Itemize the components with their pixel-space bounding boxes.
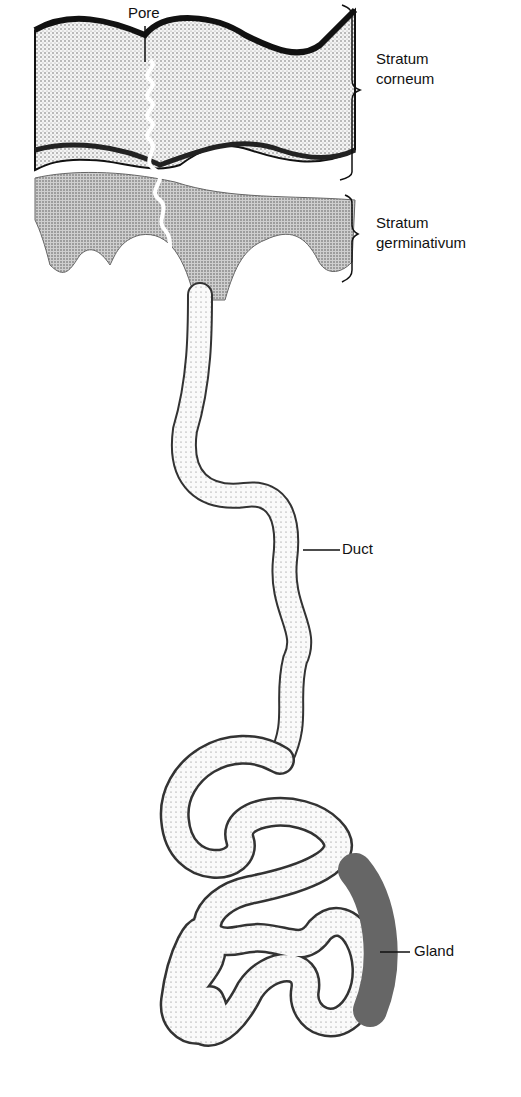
stratum-germinativum-label-line2: germinativum	[376, 234, 466, 252]
duct-label: Duct	[342, 540, 373, 558]
gland-coils	[175, 750, 381, 1032]
sweat-gland-diagram: Pore Stratum corneum Stratum germinativu…	[0, 0, 521, 1097]
pore-label: Pore	[128, 4, 160, 22]
gland-label: Gland	[414, 942, 454, 960]
diagram-illustration	[0, 0, 521, 1097]
stratum-corneum-label-line1: Stratum	[376, 50, 429, 68]
stratum-corneum-layer	[35, 10, 355, 170]
duct-tube	[184, 295, 299, 760]
stratum-corneum-label-line2: corneum	[376, 70, 434, 88]
stratum-germinativum-layer	[35, 172, 355, 300]
stratum-germinativum-label-line1: Stratum	[376, 214, 429, 232]
